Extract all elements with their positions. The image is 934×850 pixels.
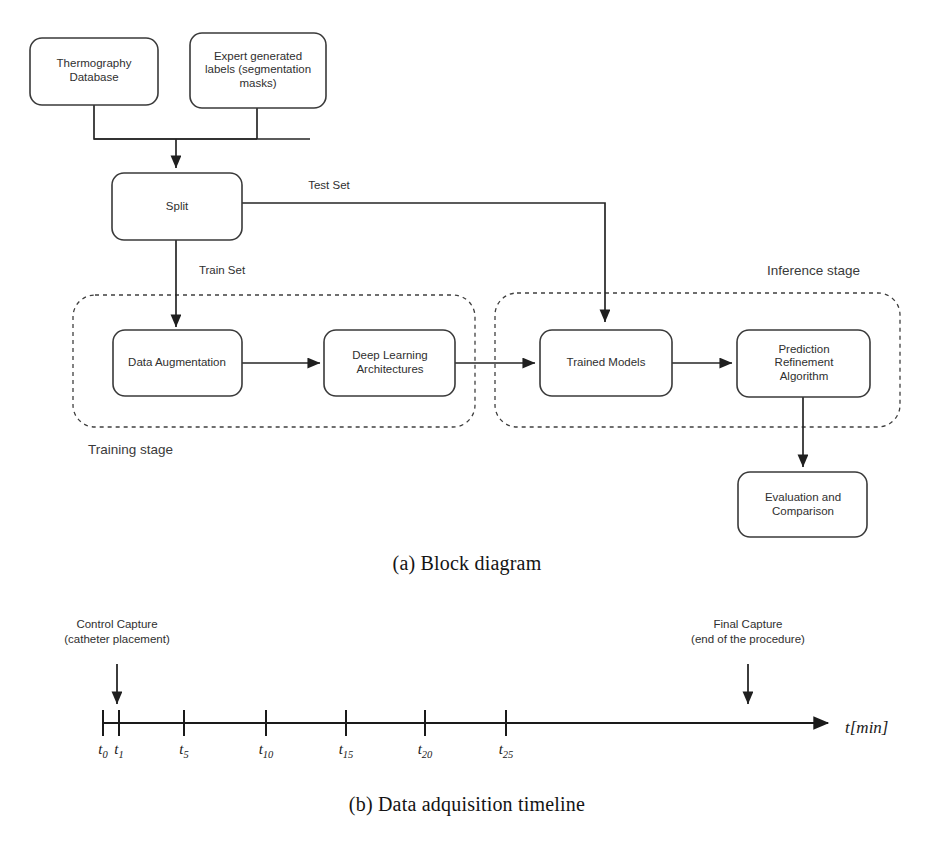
node-evaluation-comparison-label: Evaluation andComparison (765, 491, 841, 517)
timeline-tick-label-t5: t5 (179, 741, 188, 760)
node-trained-models-label: Trained Models (567, 356, 646, 368)
timeline-callout-label-final-capture: Final Capture(end of the procedure) (691, 618, 805, 645)
figure-canvas: Training stage Inference stage Test Set … (0, 0, 934, 850)
edge-label-train-set: Train Set (199, 264, 246, 276)
node-thermography-database[interactable]: ThermographyDatabase (30, 38, 158, 105)
node-trained-models[interactable]: Trained Models (540, 330, 672, 396)
node-data-augmentation[interactable]: Data Augmentation (113, 330, 242, 396)
inference-stage-label: Inference stage (767, 263, 860, 278)
node-deep-learning-architectures[interactable]: Deep LearningArchitectures (324, 330, 455, 396)
timeline-tick-label-t10: t10 (259, 741, 274, 760)
training-stage-label: Training stage (88, 442, 173, 457)
timeline-axis-title-unit: [min] (850, 718, 889, 737)
caption-timeline: (b) Data adquisition timeline (0, 793, 934, 816)
acquisition-timeline: t[min] t0t1t5t10t15t20t25 Control Captur… (64, 618, 888, 760)
timeline-tick-group: t0t1t5t10t15t20t25 (98, 710, 513, 760)
timeline-tick-label-t0: t0 (98, 741, 108, 760)
node-evaluation-comparison[interactable]: Evaluation andComparison (738, 472, 867, 537)
edge-thermography-to-merge (94, 105, 310, 139)
edge-label-test-set: Test Set (308, 179, 350, 191)
node-split[interactable]: Split (112, 173, 242, 240)
timeline-callout-final-capture: Final Capture(end of the procedure) (691, 618, 805, 704)
timeline-tick-label-t1: t1 (114, 741, 123, 760)
figure-root: Training stage Inference stage Test Set … (0, 0, 934, 850)
edge-split-to-trained-models (242, 203, 605, 322)
node-split-label: Split (166, 200, 189, 212)
node-data-augmentation-label: Data Augmentation (128, 356, 226, 368)
node-prediction-refinement-algorithm-label: PredictionRefinementAlgorithm (775, 343, 835, 382)
node-prediction-refinement-algorithm[interactable]: PredictionRefinementAlgorithm (737, 330, 870, 397)
timeline-axis-title: t[min] (845, 718, 888, 737)
timeline-callout-group: Control Capture(catheter placement)Final… (64, 618, 805, 704)
timeline-tick-label-t20: t20 (418, 741, 433, 760)
block-diagram: Training stage Inference stage Test Set … (30, 33, 900, 537)
node-deep-learning-architectures-label: Deep LearningArchitectures (352, 349, 427, 375)
caption-block-diagram: (a) Block diagram (0, 552, 934, 575)
node-expert-labels[interactable]: Expert generatedlabels (segmentationmask… (190, 33, 326, 108)
timeline-callout-label-control-capture: Control Capture(catheter placement) (64, 618, 170, 645)
timeline-callout-control-capture: Control Capture(catheter placement) (64, 618, 170, 704)
timeline-tick-label-t15: t15 (339, 741, 354, 760)
timeline-tick-label-t25: t25 (499, 741, 514, 760)
